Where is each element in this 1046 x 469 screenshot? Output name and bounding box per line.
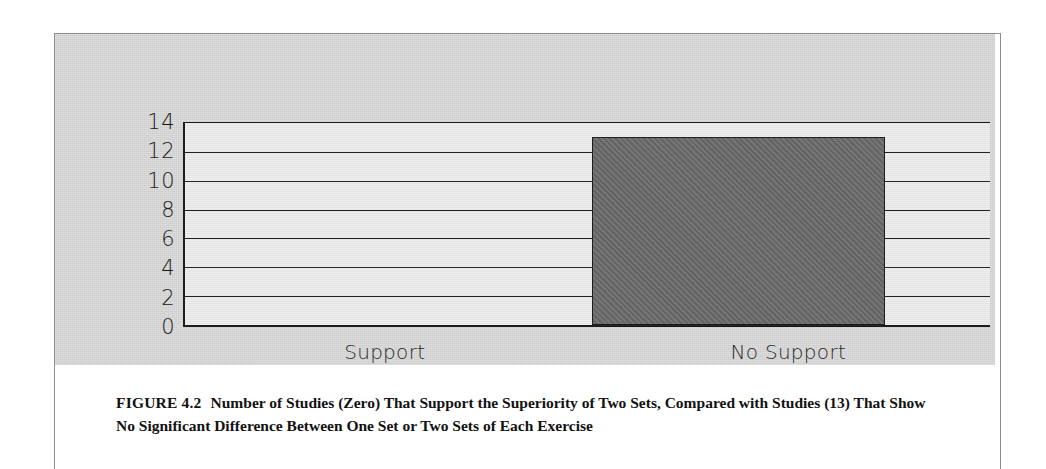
- plot-area: [183, 122, 990, 327]
- y-tick-label: 2: [135, 287, 175, 308]
- figure-caption-text: Number of Studies (Zero) That Support th…: [116, 394, 926, 434]
- figure-number: FIGURE 4.2: [116, 394, 202, 411]
- x-axis-tick-labels: Support No Support: [183, 340, 990, 365]
- y-tick-label: 0: [135, 317, 175, 338]
- y-axis-tick-labels: 14 12 10 8 6 4 2 0: [133, 122, 175, 327]
- y-tick-label: 14: [135, 112, 175, 133]
- y-tick-label: 12: [135, 141, 175, 162]
- y-tick-label: 8: [135, 199, 175, 220]
- y-tick-label: 4: [135, 258, 175, 279]
- x-tick-label-support: Support: [183, 340, 587, 365]
- x-tick-label-no-support: No Support: [587, 340, 991, 365]
- figure-caption: FIGURE 4.2Number of Studies (Zero) That …: [116, 392, 946, 438]
- bar-no-support[interactable]: [592, 137, 886, 325]
- y-tick-label: 10: [135, 170, 175, 191]
- chart-panel: 14 12 10 8 6 4 2 0 Support No Support: [55, 34, 995, 365]
- y-tick-label: 6: [135, 229, 175, 250]
